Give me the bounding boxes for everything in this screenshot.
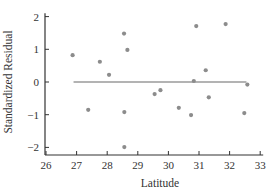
data-point <box>122 32 126 36</box>
data-point <box>192 79 196 83</box>
y-tick-label: 2 <box>34 11 40 23</box>
x-tick-label: 30 <box>163 159 175 171</box>
data-point <box>122 145 126 149</box>
data-point <box>122 110 126 114</box>
y-tick-label: −1 <box>27 109 39 121</box>
x-tick-label: 31 <box>194 159 205 171</box>
data-point <box>194 24 198 28</box>
x-axis-ticks: 2627282930313233 <box>41 151 267 171</box>
data-point <box>98 60 102 64</box>
data-point <box>204 68 208 72</box>
data-point <box>153 92 157 96</box>
x-tick-label: 32 <box>224 159 235 171</box>
x-tick-label: 29 <box>132 159 144 171</box>
data-point <box>242 111 246 115</box>
y-tick-label: −2 <box>27 141 39 153</box>
data-point <box>224 22 228 26</box>
y-tick-label: 0 <box>34 76 40 88</box>
data-point <box>71 53 75 57</box>
data-point <box>207 95 211 99</box>
x-tick-label: 27 <box>71 159 83 171</box>
x-tick-label: 26 <box>41 159 53 171</box>
data-points <box>71 22 250 149</box>
data-point <box>86 108 90 112</box>
data-point <box>189 113 193 117</box>
data-point <box>125 48 129 52</box>
data-point <box>158 88 162 92</box>
scatter-plot: −2−1012 2627282930313233 Latitude Standa… <box>0 0 278 192</box>
data-point <box>245 83 249 87</box>
data-point <box>107 73 111 77</box>
x-axis-title: Latitude <box>141 177 179 189</box>
data-point <box>177 106 181 110</box>
y-axis-ticks: −2−1012 <box>27 11 49 154</box>
y-tick-label: 1 <box>34 43 40 55</box>
x-tick-label: 33 <box>255 159 267 171</box>
x-tick-label: 28 <box>102 159 114 171</box>
y-axis-title: Standardized Residual <box>2 30 14 133</box>
